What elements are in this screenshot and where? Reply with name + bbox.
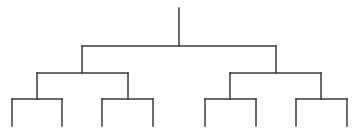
tree-diagram	[0, 0, 357, 134]
